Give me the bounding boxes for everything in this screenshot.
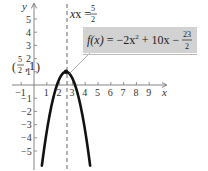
y-tick-label: 5: [26, 14, 31, 25]
parabola-curve: [42, 72, 90, 166]
svg-text:2: 2: [185, 42, 189, 51]
y-tick-label: −5: [21, 146, 32, 157]
svg-text:1: 1: [29, 59, 35, 73]
svg-text:): ): [36, 60, 40, 74]
y-tick-label: −2: [21, 106, 32, 117]
function-label-box: f(x) = −2x2 + 10x − 23 2: [83, 27, 197, 55]
y-tick-label: −3: [21, 119, 32, 130]
parabola-graph: −1123456789 54321−1−2−3−4−5 x y xx = 5 2…: [0, 0, 208, 171]
y-tick-label: 4: [26, 27, 31, 38]
vertex-point: [64, 70, 68, 74]
y-tick-label: 3: [26, 40, 31, 51]
x-tick-label: 7: [121, 87, 126, 98]
leader-line: [69, 53, 90, 74]
axis-of-symmetry-label: xx = 5 2: [69, 4, 97, 24]
x-tick-label: 4: [82, 87, 87, 98]
svg-text:(: (: [12, 60, 16, 74]
svg-text:2: 2: [91, 15, 95, 24]
x-tick-label: 2: [57, 87, 62, 98]
svg-text:2: 2: [18, 66, 22, 75]
svg-text:f(x) = −2x2 + 10x −: f(x) = −2x2 + 10x −: [87, 33, 179, 47]
svg-text:5: 5: [91, 4, 95, 13]
y-axis-label: y: [21, 0, 27, 12]
y-tick-label: −1: [21, 93, 32, 104]
x-tick-label: 1: [44, 87, 49, 98]
x-tick-label: 5: [95, 87, 100, 98]
y-tick-label: −4: [21, 132, 32, 143]
x-tick-label: 3: [69, 87, 74, 98]
x-tick-labels: −1123456789: [15, 87, 151, 98]
svg-text:23: 23: [183, 30, 191, 39]
svg-text:xx =: xx =: [69, 7, 91, 21]
svg-text:,: ,: [25, 59, 28, 73]
x-axis-label: x: [161, 86, 167, 98]
x-tick-label: 8: [133, 87, 138, 98]
svg-text:5: 5: [18, 55, 22, 64]
x-tick-label: 9: [146, 87, 151, 98]
x-tick-label: 6: [108, 87, 113, 98]
